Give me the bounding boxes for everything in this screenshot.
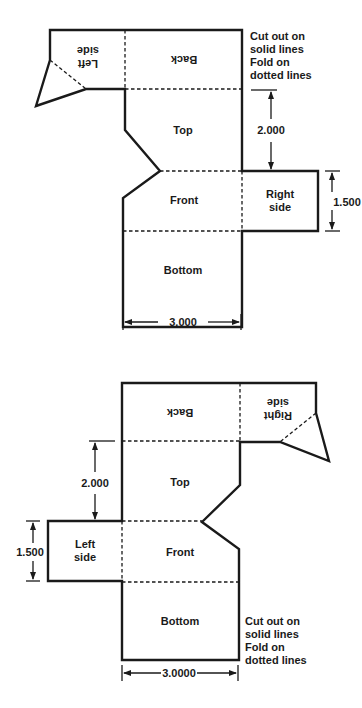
svg-text:side: side (267, 397, 289, 409)
net-bottom: Back Right side Top Left side Front Bott… (16, 383, 329, 681)
panel-right-side-line2: side (269, 201, 291, 213)
panel-back: Back (170, 54, 197, 66)
dimension-height: 2.000 (81, 441, 115, 519)
panel-right-side: Right side (264, 397, 292, 422)
panel-front: Front (170, 194, 198, 206)
dimension-height: 2.000 (251, 90, 285, 169)
svg-text:side: side (77, 45, 99, 57)
panel-top: Top (173, 124, 193, 136)
svg-text:3.0000: 3.0000 (162, 667, 196, 679)
svg-text:Fold on: Fold on (245, 641, 285, 653)
svg-text:Back: Back (166, 407, 193, 419)
svg-text:Back: Back (170, 54, 197, 66)
dimension-side: 1.500 (325, 171, 361, 231)
panel-back: Back (166, 407, 193, 419)
svg-text:dotted lines: dotted lines (245, 654, 307, 666)
instructions-bottom: Cut out on solid lines Fold on dotted li… (245, 615, 307, 666)
panel-left-side-line1: Left (75, 538, 96, 550)
svg-text:Cut out on: Cut out on (245, 615, 300, 627)
dimension-side: 1.500 (16, 521, 44, 581)
instructions-top: Cut out on solid lines Fold on dotted li… (250, 30, 312, 81)
svg-text:Cut out on: Cut out on (250, 30, 305, 42)
panel-front: Front (166, 546, 194, 558)
svg-text:Fold on: Fold on (250, 56, 290, 68)
svg-text:solid lines: solid lines (250, 43, 304, 55)
svg-text:1.500: 1.500 (333, 196, 361, 208)
panel-right-side-line1: Right (266, 188, 294, 200)
svg-text:solid lines: solid lines (245, 628, 299, 640)
svg-text:Left: Left (78, 58, 99, 70)
svg-text:1.500: 1.500 (16, 546, 44, 558)
panel-bottom: Bottom (161, 615, 200, 627)
svg-text:3.000: 3.000 (169, 316, 197, 328)
svg-text:2.000: 2.000 (257, 124, 285, 136)
panel-left-side-line2: side (74, 551, 96, 563)
panel-bottom: Bottom (164, 264, 203, 276)
panel-top: Top (170, 476, 190, 488)
box-net-diagrams: Left side Back Top Front Right side Bott… (0, 0, 362, 708)
net-top: Left side Back Top Front Right side Bott… (36, 30, 361, 330)
dimension-width: 3.0000 (122, 665, 238, 681)
panel-left-side: Left side (77, 45, 99, 70)
svg-text:dotted lines: dotted lines (250, 69, 312, 81)
svg-text:2.000: 2.000 (81, 477, 109, 489)
svg-text:Right: Right (264, 410, 292, 422)
